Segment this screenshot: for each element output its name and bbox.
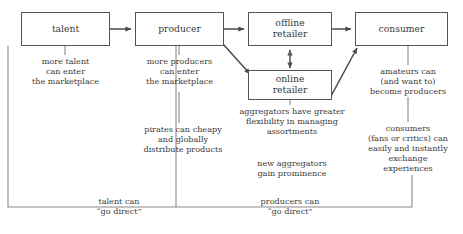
note-amateurs: amateurs can (and want to) become produc… [358, 66, 458, 96]
note-consumers-exchange: consumers (fans or critics) can easily a… [356, 123, 460, 174]
note-aggregators-flexibility: aggregators have greater flexibility in … [229, 106, 355, 136]
node-offline-retailer[interactable]: offline retailer [248, 12, 332, 46]
node-consumer-label: consumer [379, 24, 425, 35]
note-new-aggregators: new aggregators gain prominence [237, 158, 347, 178]
node-producer[interactable]: producer [135, 12, 224, 46]
connector-online-retailer-to-consumer [330, 48, 357, 98]
note-producers-go-direct: producers can “go direct” [238, 196, 342, 216]
note-more-producers: more producers can enter the marketplace [127, 56, 232, 86]
diagram-canvas: talent producer offline retailer consume… [0, 0, 463, 234]
note-talent-go-direct: talent can “go direct” [71, 196, 167, 216]
node-online-retailer[interactable]: online retailer [248, 70, 332, 100]
note-more-talent: more talent can enter the marketplace [13, 56, 118, 86]
node-online-retailer-label: online retailer [273, 74, 308, 96]
node-consumer[interactable]: consumer [355, 12, 448, 46]
node-talent-label: talent [52, 24, 79, 35]
node-offline-retailer-label: offline retailer [273, 18, 308, 40]
node-producer-label: producer [158, 24, 201, 35]
node-talent[interactable]: talent [21, 12, 110, 46]
note-pirates: pirates can cheapy and globally distribu… [127, 124, 239, 154]
